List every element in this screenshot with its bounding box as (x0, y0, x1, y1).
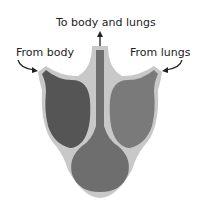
arrow-from-body (18, 60, 34, 70)
arrow-up-head (97, 31, 103, 37)
arrow-from-lungs (166, 60, 182, 70)
arrow-from-body-head (32, 67, 38, 73)
heart-diagram (0, 0, 200, 202)
arrow-from-lungs-head (162, 67, 168, 73)
